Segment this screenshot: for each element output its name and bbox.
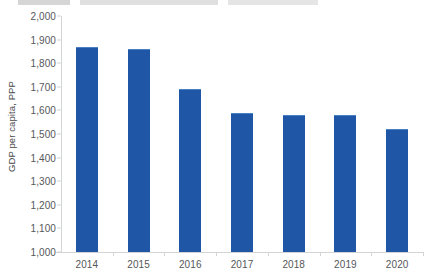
- plot-area: [61, 16, 423, 252]
- y-tick-mark: [57, 39, 61, 40]
- y-tick-label: 1,500: [30, 129, 56, 140]
- y-tick-label: 1,900: [30, 34, 56, 45]
- x-tick-mark: [216, 252, 217, 256]
- y-tick-mark: [57, 228, 61, 229]
- y-tick-label: 1,300: [30, 176, 56, 187]
- y-tick-label: 1,000: [30, 247, 56, 258]
- y-tick-mark: [57, 134, 61, 135]
- y-tick-label: 1,600: [30, 105, 56, 116]
- x-tick-label: 2019: [334, 259, 357, 270]
- y-axis-title: GDP per capita, PPP: [0, 0, 22, 252]
- x-tick-label: 2014: [76, 259, 99, 270]
- x-tick-mark: [371, 252, 372, 256]
- y-axis-title-label: GDP per capita, PPP: [6, 81, 17, 172]
- x-tick-mark: [164, 252, 165, 256]
- x-axis-line: [56, 252, 423, 253]
- x-tick-label: 2018: [282, 259, 305, 270]
- cropped-title-fragment: [18, 0, 348, 5]
- y-tick-mark: [57, 181, 61, 182]
- bar: [179, 89, 201, 252]
- y-tick-mark: [57, 110, 61, 111]
- x-tick-mark: [113, 252, 114, 256]
- bar: [231, 113, 253, 252]
- bar: [76, 47, 98, 252]
- y-tick-label: 1,800: [30, 58, 56, 69]
- y-tick-mark: [57, 86, 61, 87]
- y-axis-tick-labels: 1,0001,1001,2001,3001,4001,5001,6001,700…: [22, 0, 56, 277]
- y-tick-label: 1,700: [30, 81, 56, 92]
- bar-chart: GDP per capita, PPP 1,0001,1001,2001,300…: [0, 0, 426, 277]
- x-tick-mark: [268, 252, 269, 256]
- y-tick-mark: [57, 157, 61, 158]
- bar: [334, 115, 356, 252]
- y-tick-mark: [57, 204, 61, 205]
- x-tick-label: 2017: [231, 259, 254, 270]
- x-tick-label: 2020: [386, 259, 409, 270]
- x-tick-label: 2016: [179, 259, 202, 270]
- y-tick-label: 1,400: [30, 152, 56, 163]
- y-tick-mark: [57, 252, 61, 253]
- bar: [128, 49, 150, 252]
- y-tick-label: 1,200: [30, 199, 56, 210]
- y-tick-mark: [57, 16, 61, 17]
- bar: [386, 129, 408, 252]
- y-tick-label: 2,000: [30, 11, 56, 22]
- y-tick-label: 1,100: [30, 223, 56, 234]
- x-tick-label: 2015: [127, 259, 150, 270]
- y-tick-mark: [57, 63, 61, 64]
- bar: [283, 115, 305, 252]
- x-tick-mark: [320, 252, 321, 256]
- x-tick-mark: [423, 252, 424, 256]
